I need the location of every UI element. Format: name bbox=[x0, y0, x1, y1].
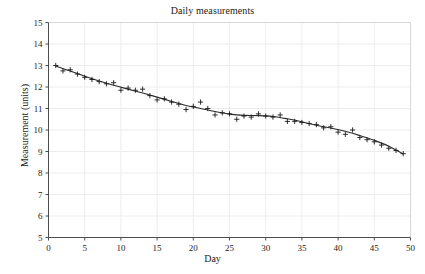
data-point-marker bbox=[227, 111, 232, 116]
data-point-marker bbox=[147, 93, 152, 98]
tick-label-x: 0 bbox=[46, 243, 51, 253]
data-point-marker bbox=[162, 96, 167, 101]
data-point-marker bbox=[299, 120, 304, 125]
data-point-marker bbox=[118, 88, 123, 93]
data-point-marker bbox=[198, 99, 203, 104]
data-point-marker bbox=[53, 63, 58, 68]
tick-label-y: 9 bbox=[38, 147, 43, 157]
data-point-marker bbox=[169, 99, 174, 104]
data-point-marker bbox=[234, 117, 239, 122]
tick-label-y: 10 bbox=[34, 125, 44, 135]
chart-container: Daily measurements Measurement (units) D… bbox=[0, 0, 425, 274]
data-point-marker bbox=[241, 113, 246, 118]
data-point-marker bbox=[104, 81, 109, 86]
tick-label-y: 8 bbox=[38, 168, 43, 178]
tick-label-x: 25 bbox=[225, 243, 235, 253]
data-point-marker bbox=[343, 132, 348, 137]
data-point-marker bbox=[220, 110, 225, 115]
data-point-marker bbox=[97, 79, 102, 84]
data-point-marker bbox=[75, 72, 80, 77]
gridlines bbox=[49, 23, 411, 238]
plot-area: 0510152025303540455056789101112131415 bbox=[0, 0, 425, 274]
tick-label-x: 45 bbox=[370, 243, 380, 253]
tick-label-y: 14 bbox=[34, 39, 44, 49]
data-point-marker bbox=[263, 113, 268, 118]
tick-label-y: 5 bbox=[38, 233, 43, 243]
tick-label-x: 35 bbox=[297, 243, 307, 253]
tick-label-x: 30 bbox=[261, 243, 271, 253]
tick-label-x: 5 bbox=[82, 243, 87, 253]
data-point-marker bbox=[350, 127, 355, 132]
data-point-marker bbox=[212, 112, 217, 117]
tick-label-y: 11 bbox=[34, 104, 43, 114]
data-point-marker bbox=[270, 115, 275, 120]
data-point-marker bbox=[183, 107, 188, 112]
tick-label-y: 7 bbox=[38, 190, 43, 200]
data-point-marker bbox=[314, 122, 319, 127]
axis-ticks bbox=[46, 23, 411, 241]
tick-label-y: 12 bbox=[34, 82, 43, 92]
data-point-marker bbox=[307, 121, 312, 126]
tick-label-y: 6 bbox=[38, 211, 43, 221]
tick-label-x: 20 bbox=[189, 243, 199, 253]
tick-label-y: 15 bbox=[34, 18, 44, 28]
tick-label-x: 15 bbox=[153, 243, 163, 253]
tick-label-x: 10 bbox=[116, 243, 126, 253]
tick-label-x: 40 bbox=[334, 243, 344, 253]
tick-label-y: 13 bbox=[34, 61, 44, 71]
tick-label-x: 50 bbox=[406, 243, 416, 253]
data-point-marker bbox=[176, 102, 181, 107]
